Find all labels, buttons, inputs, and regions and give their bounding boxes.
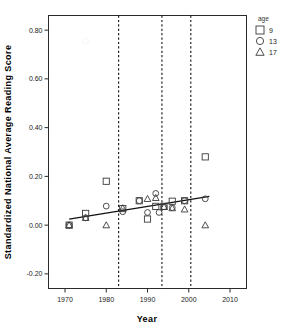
vertical-reference-lines: [119, 16, 191, 289]
data-point-17: [66, 222, 73, 228]
y-tick-label: 0.40: [29, 124, 43, 131]
y-axis-title: Standardized National Average Reading Sc…: [3, 45, 13, 260]
legend-label-9: 9: [269, 27, 273, 34]
data-point-13: [103, 203, 109, 209]
data-point-9: [202, 154, 208, 160]
scatter-plot-svg: 19701980199020002010 -0.200.000.200.400.…: [0, 0, 301, 328]
legend-label-13: 13: [269, 38, 277, 45]
legend-marker-13: [256, 37, 263, 44]
y-tick-labels: -0.200.000.200.400.600.80: [27, 27, 43, 278]
x-tick-labels: 19701980199020002010: [57, 296, 238, 303]
legend: age 91317: [256, 15, 277, 56]
data-point-13: [153, 191, 159, 197]
legend-marker-17: [256, 48, 264, 55]
x-axis-title: Year: [137, 314, 158, 324]
regression-line: [69, 196, 209, 219]
trend-line: [69, 196, 209, 219]
legend-label-17: 17: [269, 49, 277, 56]
legend-marker-9: [256, 26, 264, 34]
data-point-9: [144, 216, 150, 222]
y-tick-label: 0.80: [29, 27, 43, 34]
legend-entries: 91317: [256, 26, 277, 56]
x-tick-label: 2010: [222, 296, 238, 303]
data-point-17: [181, 206, 188, 212]
x-tick-label: 1980: [98, 296, 114, 303]
legend-title: age: [258, 15, 269, 23]
faint-artifact-markers: [83, 38, 89, 44]
x-tick-label: 2000: [181, 296, 197, 303]
x-tick-label: 1970: [57, 296, 73, 303]
data-markers: [66, 154, 209, 228]
y-tick-label: 0.00: [29, 222, 43, 229]
data-point-13: [136, 198, 142, 204]
y-tickmarks: [45, 30, 49, 274]
y-tick-label: 0.60: [29, 75, 43, 82]
data-point-9: [169, 198, 175, 204]
data-point-13: [145, 210, 151, 216]
x-tick-label: 1990: [140, 296, 156, 303]
data-point-17: [202, 222, 209, 228]
data-point-9: [103, 178, 109, 184]
y-tick-label: -0.20: [27, 270, 43, 277]
plot-frame: [49, 16, 247, 289]
data-point-17: [144, 195, 151, 201]
x-tickmarks: [65, 289, 230, 293]
data-point-13: [156, 210, 162, 216]
y-tick-label: 0.20: [29, 173, 43, 180]
data-point-17: [103, 222, 110, 228]
faint-marker: [83, 38, 89, 44]
chart-container: 19701980199020002010 -0.200.000.200.400.…: [0, 0, 301, 328]
